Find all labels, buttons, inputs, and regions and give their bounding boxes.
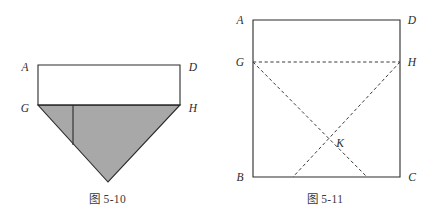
figure-5-10-drawing: A D G H xyxy=(0,0,215,190)
vertex-label-g: G xyxy=(236,56,245,68)
vertex-label-a: A xyxy=(235,14,244,26)
vertex-label-d: D xyxy=(407,14,417,26)
rectangle-adhg xyxy=(38,65,180,105)
figure-5-10-caption: 图 5-10 xyxy=(0,190,215,206)
shaded-triangle-ghp xyxy=(38,105,180,182)
vertex-label-h: H xyxy=(188,102,198,114)
square-abcd xyxy=(253,20,400,177)
vertex-label-c: C xyxy=(408,171,416,183)
figure-5-10-panel: A D G H 图 5-10 xyxy=(0,0,215,218)
figure-5-11-caption: 图 5-11 xyxy=(215,190,435,206)
vertex-label-g: G xyxy=(21,102,30,114)
figure-page: A D G H 图 5-10 A D G H B C K 图 5-11 xyxy=(0,0,435,218)
vertex-label-h: H xyxy=(407,56,417,68)
vertex-label-k: K xyxy=(335,137,345,149)
figure-5-11-drawing: A D G H B C K xyxy=(215,0,435,190)
figure-5-11-panel: A D G H B C K 图 5-11 xyxy=(215,0,435,218)
vertex-label-b: B xyxy=(236,171,243,183)
vertex-label-d: D xyxy=(188,61,198,73)
vertex-label-a: A xyxy=(20,61,29,73)
